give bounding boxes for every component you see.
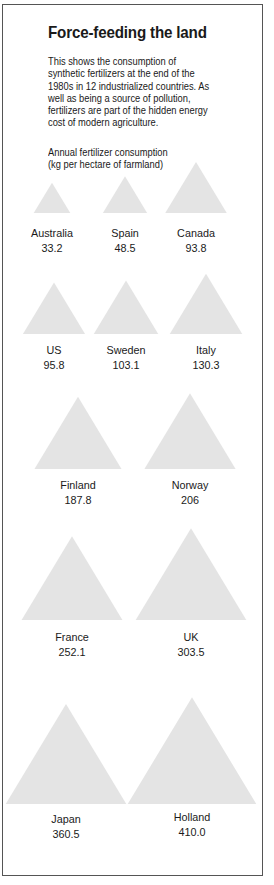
country-label: Japan (51, 813, 80, 825)
value-label: 360.5 (52, 828, 79, 840)
value-label: 48.5 (114, 242, 135, 254)
triangle-norway (144, 393, 235, 469)
country-label: Norway (172, 479, 209, 491)
value-label: 33.2 (41, 242, 62, 254)
value-label: 93.8 (185, 242, 206, 254)
triangle-us (23, 282, 85, 334)
triangle-italy (170, 274, 242, 334)
value-label: 303.5 (177, 646, 204, 658)
triangle-sweden (94, 280, 158, 334)
triangle-spain (103, 176, 147, 213)
country-label: Finland (60, 479, 95, 491)
triangle-finland (34, 397, 121, 469)
country-label: US (47, 344, 62, 356)
country-label: France (55, 631, 89, 643)
triangle-australia (34, 183, 71, 213)
country-label: Sweden (106, 344, 145, 356)
triangle-canada (165, 162, 227, 213)
country-label: Italy (196, 344, 216, 356)
value-label: 410.0 (178, 826, 205, 838)
value-label: 103.1 (112, 359, 139, 371)
value-label: 187.8 (64, 494, 91, 506)
value-label: 252.1 (58, 646, 85, 658)
triangle-holland (128, 697, 257, 804)
country-label: Holland (174, 811, 211, 823)
value-label: 206 (181, 494, 199, 506)
country-label: UK (184, 631, 200, 643)
triangle-france (22, 536, 123, 620)
triangle-uk (136, 528, 247, 620)
triangle-japan (6, 704, 127, 804)
country-label: Canada (177, 227, 215, 239)
value-label: 130.3 (192, 359, 219, 371)
country-label: Australia (31, 227, 73, 239)
country-label: Spain (111, 227, 139, 239)
value-label: 95.8 (43, 359, 64, 371)
triangle-chart: Australia33.2Spain48.5Canada93.8US95.8Sw… (0, 0, 274, 885)
